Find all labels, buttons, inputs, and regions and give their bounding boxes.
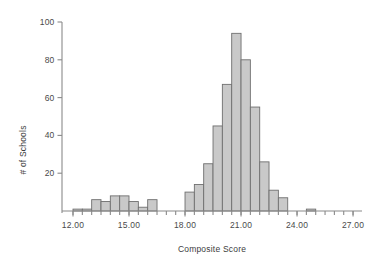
histogram-bar — [185, 192, 194, 211]
y-axis-tick-label: 60 — [45, 93, 55, 103]
y-axis-tick-label: 40 — [45, 130, 55, 140]
histogram-bar — [138, 207, 147, 211]
histogram-bar — [101, 202, 110, 211]
histogram-bar — [204, 164, 213, 211]
histogram-bar — [250, 107, 259, 211]
x-axis-tick-label: 21.00 — [230, 220, 252, 230]
y-axis-tick-label: 100 — [40, 17, 55, 27]
x-axis-title: Composite Score — [178, 244, 246, 254]
histogram-bar — [213, 126, 222, 211]
histogram-bar — [92, 200, 101, 211]
y-axis-tick-label: 20 — [45, 168, 55, 178]
histogram-bar — [232, 33, 241, 211]
histogram-bar — [269, 190, 278, 211]
histogram-bar — [120, 196, 129, 211]
x-axis-tick-label: 12.00 — [62, 220, 84, 230]
x-axis-tick-label: 18.00 — [174, 220, 196, 230]
x-axis-tick-label: 27.00 — [342, 220, 364, 230]
histogram-figure: 20406080100 12.0015.0018.0021.0024.0027.… — [0, 0, 374, 267]
histogram-bar — [241, 60, 250, 211]
histogram-bar — [129, 202, 138, 211]
histogram-bar — [194, 185, 203, 211]
histogram-bar — [278, 198, 287, 211]
histogram-bar — [260, 162, 269, 211]
histogram-bar — [222, 84, 231, 211]
histogram-bar — [110, 196, 119, 211]
histogram-chart: 20406080100 12.0015.0018.0021.0024.0027.… — [0, 0, 374, 267]
histogram-bar — [148, 200, 157, 211]
x-axis-tick-label: 15.00 — [118, 220, 140, 230]
y-axis-tick-label: 80 — [45, 55, 55, 65]
x-axis-tick-label: 24.00 — [286, 220, 308, 230]
y-axis-title: # of Schools — [18, 125, 28, 174]
